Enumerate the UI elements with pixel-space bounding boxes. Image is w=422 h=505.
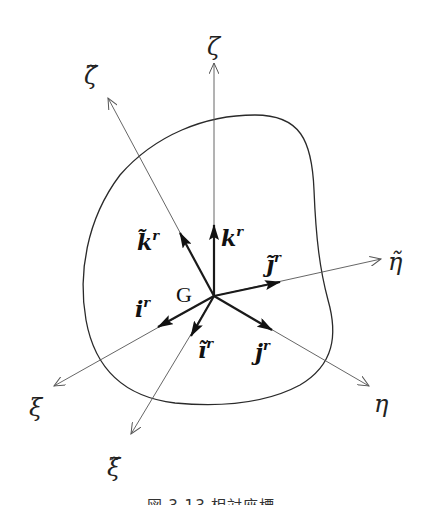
xi-label: ξ — [29, 394, 44, 422]
i-r-label: ir — [135, 295, 151, 322]
i-tilde-r-label: ĩr — [198, 336, 214, 363]
eta-label: η — [374, 390, 389, 418]
k-r-label: kr — [221, 224, 244, 251]
j-r-vector — [214, 296, 272, 330]
j-r-label: jr — [251, 338, 271, 365]
eta-tilde-label: η̃ — [388, 248, 403, 276]
figure-caption: 図 3.13 相対座標 — [0, 494, 422, 505]
k-tilde-r-label: k̃r — [137, 228, 160, 255]
coordinate-frame-diagram: ζ ζ̃ η̃ η ξ ξ̃ G kr k̃r j̃r jr ir ĩr — [0, 0, 422, 505]
j-tilde-r-vector — [214, 282, 280, 296]
j-tilde-r-label: j̃r — [262, 250, 282, 277]
xi-tilde-label: ξ̃ — [107, 454, 122, 482]
origin-label-g: G — [176, 282, 192, 307]
zeta-tilde-label: ζ̃ — [84, 62, 99, 90]
rigid-body-outline — [83, 115, 333, 405]
figure-caption-text: 図 3.13 相対座標 — [0, 494, 422, 505]
zeta-label: ζ — [207, 33, 222, 61]
